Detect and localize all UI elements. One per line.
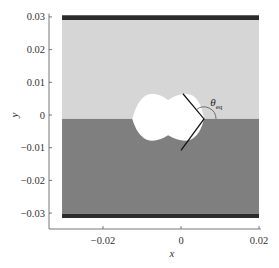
- chart: θeq 0.030.020.010−0.01−0.02−0.03 −0.0200…: [0, 0, 279, 268]
- y-ticks: 0.030.020.010−0.01−0.02−0.03: [21, 11, 52, 218]
- x-axis-label: x: [169, 247, 175, 259]
- x-tick-label: 0.02: [250, 235, 268, 246]
- y-tick-label: −0.02: [21, 175, 45, 186]
- y-tick-label: 0: [40, 110, 45, 121]
- y-tick-label: −0.03: [21, 208, 45, 219]
- y-axis-label: y: [8, 112, 20, 118]
- y-tick-label: 0.01: [27, 77, 45, 88]
- region-bottom-wall: [62, 214, 259, 218]
- x-tick-label: −0.02: [91, 235, 115, 246]
- x-tick-label: 0: [178, 235, 183, 246]
- region-top-wall: [62, 15, 259, 20]
- y-tick-label: 0.02: [27, 44, 45, 55]
- y-tick-label: 0.03: [27, 11, 45, 22]
- y-tick-label: −0.01: [21, 142, 45, 153]
